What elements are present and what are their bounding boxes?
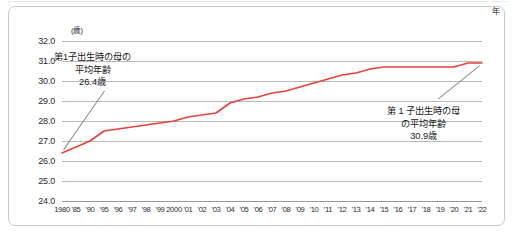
- annotation-left-line2: 平均年齢: [54, 64, 131, 77]
- x-tick-label-16: '08: [279, 205, 294, 215]
- x-tick-label-23: '15: [377, 205, 392, 215]
- y-tick-label-26: 26.0: [15, 157, 55, 166]
- x-tick-label-19: '11: [321, 205, 336, 215]
- y-tick-label-31: 31.0: [15, 57, 55, 66]
- x-tick-label-21: '13: [349, 205, 364, 215]
- x-axis-tick-labels: 1980'85'90'95'96'97'98'992000'01'02'03'0…: [62, 205, 494, 219]
- x-tick-label-30: '22: [475, 205, 490, 215]
- x-tick-label-26: '18: [419, 205, 434, 215]
- y-tick-label-30: 30.0: [15, 77, 55, 86]
- annotation-right-line1: 第 1 子出生時の母: [387, 105, 460, 118]
- x-tick-label-6: '98: [139, 205, 154, 215]
- x-tick-label-11: '03: [209, 205, 224, 215]
- x-tick-label-18: '10: [307, 205, 322, 215]
- x-axis-unit-label: 年: [492, 7, 500, 17]
- annotation-right: 第 1 子出生時の母 の平均年齢 30.9歳: [387, 105, 460, 143]
- y-axis-unit-label: (歳): [71, 27, 83, 35]
- annotation-left-line1: 第1子出生時の母の: [54, 51, 131, 64]
- x-tick-label-14: '06: [251, 205, 266, 215]
- x-tick-label-25: '17: [405, 205, 420, 215]
- y-tick-label-24: 24.0: [15, 197, 55, 206]
- annotation-left-line3: 26.4歳: [54, 76, 131, 89]
- y-tick-label-32: 32.0: [15, 37, 55, 46]
- annotation-right-line3: 30.9歳: [387, 130, 460, 143]
- x-tick-label-24: '16: [391, 205, 406, 215]
- x-tick-label-13: '05: [237, 205, 252, 215]
- x-tick-label-3: '95: [97, 205, 112, 215]
- x-tick-label-20: '12: [335, 205, 350, 215]
- x-tick-label-2: '90: [83, 205, 98, 215]
- x-tick-label-17: '09: [293, 205, 308, 215]
- x-tick-label-1: '85: [69, 205, 84, 215]
- x-tick-label-15: '07: [265, 205, 280, 215]
- x-tick-label-29: '21: [461, 205, 476, 215]
- y-tick-label-29: 29.0: [15, 97, 55, 106]
- scan-artifact-line: [8, 1, 507, 2]
- x-tick-label-5: '97: [125, 205, 140, 215]
- chart-figure: (歳) 32.0 31.0 30.0 29.0 28.0 27.0 26.0 2…: [8, 6, 505, 226]
- x-tick-label-27: '19: [433, 205, 448, 215]
- x-tick-label-22: '14: [363, 205, 378, 215]
- x-tick-label-12: '04: [223, 205, 238, 215]
- x-tick-label-10: '02: [195, 205, 210, 215]
- y-tick-label-25: 25.0: [15, 177, 55, 186]
- annotation-left: 第1子出生時の母の 平均年齢 26.4歳: [54, 51, 131, 89]
- x-axis-line: [62, 201, 482, 202]
- x-tick-label-4: '96: [111, 205, 126, 215]
- annotation-right-line2: の平均年齢: [387, 118, 460, 131]
- x-tick-label-28: '20: [447, 205, 462, 215]
- y-tick-label-28: 28.0: [15, 117, 55, 126]
- y-tick-label-27: 27.0: [15, 137, 55, 146]
- x-tick-label-9: '01: [181, 205, 196, 215]
